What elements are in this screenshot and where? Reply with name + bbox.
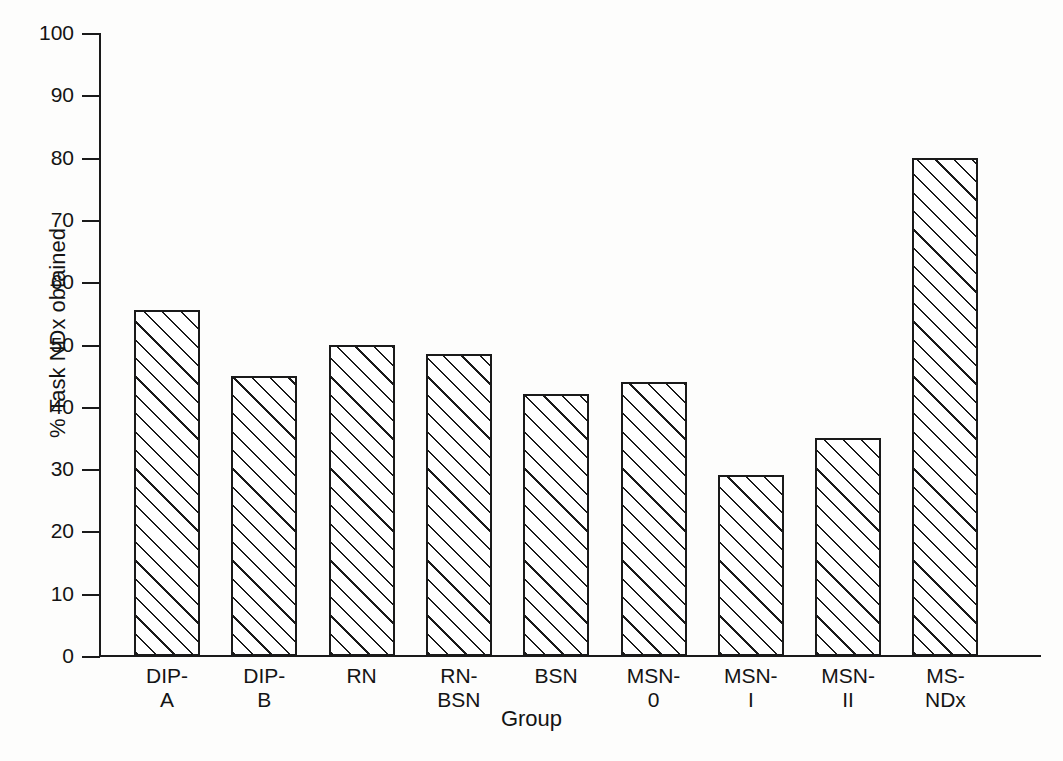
y-tick-mark <box>82 158 100 160</box>
x-tick-label: MS- NDx <box>890 664 1000 711</box>
x-tick-label: MSN- I <box>696 664 806 711</box>
y-tick-label: 20 <box>12 520 74 541</box>
bar <box>621 382 687 656</box>
x-axis-title: Group <box>0 706 1063 732</box>
bar-chart-figure: % Task NDx obtained 01020304050607080901… <box>0 0 1063 761</box>
y-tick-mark <box>82 469 100 471</box>
y-tick-mark <box>82 33 100 35</box>
bar <box>912 158 978 656</box>
y-tick-mark <box>82 594 100 596</box>
x-tick-label: MSN- II <box>793 664 903 711</box>
y-tick-label: 100 <box>12 22 74 43</box>
y-tick-label: 70 <box>12 209 74 230</box>
bar <box>231 376 297 656</box>
y-tick-label: 10 <box>12 583 74 604</box>
x-tick-label: RN- BSN <box>404 664 514 711</box>
bar <box>815 438 881 656</box>
y-tick-mark <box>82 531 100 533</box>
y-tick-label: 30 <box>12 458 74 479</box>
y-tick-label: 60 <box>12 271 74 292</box>
bar <box>134 310 200 656</box>
y-tick-mark <box>82 656 100 658</box>
y-tick-mark <box>82 345 100 347</box>
bar <box>718 475 784 656</box>
x-tick-label: DIP- A <box>112 664 222 711</box>
y-tick-mark <box>82 95 100 97</box>
y-tick-mark <box>82 407 100 409</box>
x-tick-label: DIP- B <box>209 664 319 711</box>
x-tick-label: RN <box>307 664 417 688</box>
x-tick-label: MSN- 0 <box>599 664 709 711</box>
y-tick-mark <box>82 220 100 222</box>
y-tick-mark <box>82 282 100 284</box>
bar <box>523 394 589 656</box>
x-tick-label: BSN <box>501 664 611 688</box>
bar <box>329 345 395 657</box>
bar <box>426 354 492 656</box>
y-tick-label: 80 <box>12 147 74 168</box>
y-tick-label: 0 <box>12 645 74 666</box>
y-tick-label: 90 <box>12 84 74 105</box>
y-tick-label: 50 <box>12 334 74 355</box>
y-tick-label: 40 <box>12 396 74 417</box>
